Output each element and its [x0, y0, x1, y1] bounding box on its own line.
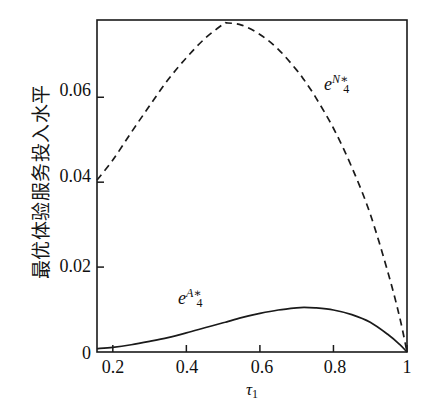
chart-figure: 最优体验服务投入水平 0 0.02 0.04 0.06 0.2 0.4 0.6 … [0, 0, 427, 418]
series-line-dashed [97, 23, 407, 352]
tick-marks [97, 97, 407, 352]
series-line-solid [97, 307, 407, 352]
plot-area [0, 0, 427, 418]
